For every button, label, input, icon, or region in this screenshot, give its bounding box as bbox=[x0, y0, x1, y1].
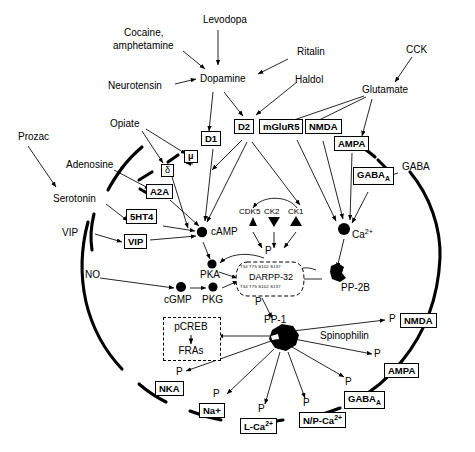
effector-npca[interactable]: N/P-Ca2+ bbox=[299, 412, 346, 428]
ligand-cocaine: Cocaine, bbox=[124, 28, 163, 38]
receptor-gabaa[interactable]: GABAA bbox=[353, 167, 394, 185]
p-tag-gabaa2: P bbox=[345, 377, 352, 387]
ligand-haldol: Haldol bbox=[295, 75, 323, 85]
effector-npca-sup: 2+ bbox=[334, 414, 342, 421]
pathway-diagram: Cocaine, amphetamine Levodopa Ritalin CC… bbox=[0, 0, 475, 452]
node-ca: Ca2+ bbox=[352, 228, 373, 240]
node-spinophilin: Spinophilin bbox=[320, 331, 369, 341]
ligand-amphetamine: amphetamine bbox=[113, 41, 174, 51]
pcreb-label: pCREB bbox=[163, 322, 219, 332]
receptor-d1[interactable]: D1 bbox=[201, 131, 221, 146]
ligand-cck: CCK bbox=[406, 45, 427, 55]
node-pkg: PKG bbox=[202, 295, 223, 305]
ligand-glutamate: Glutamate bbox=[362, 85, 408, 95]
p-tag-na: P bbox=[213, 389, 220, 399]
darpp32-residues-top: T34 T75 S102 S137 bbox=[240, 265, 281, 269]
effector-gabaa[interactable]: GABAA bbox=[344, 391, 385, 409]
node-ca-label: Ca bbox=[352, 229, 365, 240]
effector-lca-label: L-Ca bbox=[244, 421, 265, 432]
node-pka: PKA bbox=[200, 270, 220, 280]
receptor-a2a[interactable]: A2A bbox=[146, 184, 173, 199]
darpp32-residues-bottom: T34 T75 S102 S137 bbox=[240, 285, 281, 289]
node-ca-sup: 2+ bbox=[365, 227, 373, 236]
node-camp: cAMP bbox=[211, 227, 238, 237]
receptor-mu[interactable]: μ bbox=[184, 150, 198, 163]
effector-lca[interactable]: L-Ca2+ bbox=[240, 418, 277, 434]
ligand-gaba: GABA bbox=[402, 162, 430, 172]
receptor-delta[interactable]: δ bbox=[161, 164, 174, 177]
fras-label: FRAs bbox=[163, 346, 219, 356]
effector-gabaa-label: GABA bbox=[348, 393, 376, 404]
effector-lca-sup: 2+ bbox=[265, 420, 273, 427]
ligand-levodopa: Levodopa bbox=[203, 15, 247, 25]
node-cgmp: cGMP bbox=[164, 295, 192, 305]
effector-ampa[interactable]: AMPA bbox=[384, 363, 419, 378]
effector-gabaa-sub: A bbox=[376, 398, 381, 405]
kinase-ck1: CK1 bbox=[288, 208, 304, 216]
ligand-opiate: Opiate bbox=[110, 119, 139, 129]
p-tag-ampa2: P bbox=[374, 349, 381, 359]
receptor-signal-arrows bbox=[150, 140, 368, 240]
darpp32-p-above: P bbox=[265, 246, 272, 256]
receptor-5ht4[interactable]: 5HT4 bbox=[126, 209, 157, 224]
receptor-mglur5[interactable]: mGluR5 bbox=[259, 119, 303, 134]
kinase-ck2: CK2 bbox=[264, 208, 280, 216]
ligand-prozac: Prozac bbox=[18, 132, 49, 142]
p-tag-nka: P bbox=[176, 367, 183, 377]
effector-na[interactable]: Na+ bbox=[199, 403, 225, 418]
p-tag-nmda2: P bbox=[389, 314, 396, 324]
p-tag-npca: P bbox=[303, 398, 310, 408]
p-tag-lca: P bbox=[258, 404, 265, 414]
ligand-no: NO bbox=[85, 270, 100, 280]
ligand-adenosine: Adenosine bbox=[66, 160, 113, 170]
effector-nmda[interactable]: NMDA bbox=[400, 313, 437, 328]
node-pp1: PP-1 bbox=[264, 315, 286, 325]
kinase-cdk5: CDK5 bbox=[239, 208, 260, 216]
effector-nka[interactable]: NKA bbox=[155, 381, 184, 396]
receptor-vip[interactable]: VIP bbox=[124, 234, 147, 249]
ligand-ritalin: Ritalin bbox=[297, 47, 325, 57]
node-pp2b: PP-2B bbox=[341, 283, 370, 293]
receptor-ampa[interactable]: AMPA bbox=[334, 136, 369, 151]
darpp32-p-below: P bbox=[255, 297, 262, 307]
effector-npca-label: N/P-Ca bbox=[303, 415, 334, 426]
receptor-nmda[interactable]: NMDA bbox=[305, 119, 342, 134]
receptor-gabaa-sub: A bbox=[385, 174, 390, 181]
darpp32-name: DARPP-32 bbox=[240, 273, 302, 282]
receptor-gabaa-label: GABA bbox=[357, 169, 385, 180]
ligand-serotonin: Serotonin bbox=[53, 194, 96, 204]
ligand-dopamine: Dopamine bbox=[200, 74, 246, 84]
ligand-vip: VIP bbox=[62, 228, 78, 238]
receptor-d2[interactable]: D2 bbox=[234, 119, 254, 134]
ligand-neurotensin: Neurotensin bbox=[108, 81, 162, 91]
